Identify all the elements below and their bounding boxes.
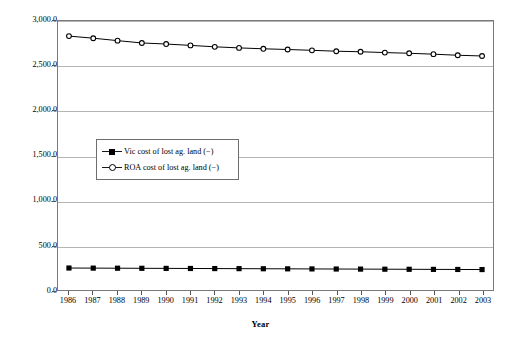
x-tick-label: 1991 (182, 296, 198, 306)
x-tick-mark (410, 291, 411, 295)
data-point-marker (479, 267, 484, 272)
x-tick-label: 1988 (109, 296, 125, 306)
x-tick-label: 1989 (133, 296, 149, 306)
x-tick-label: 1986 (60, 296, 76, 306)
data-point-marker (115, 38, 120, 43)
y-tick-mark (52, 110, 56, 111)
filled-square-marker-icon (102, 147, 122, 157)
y-tick-mark (52, 291, 56, 292)
x-tick-mark (361, 291, 362, 295)
open-circle-marker-icon (102, 163, 122, 173)
data-point-marker (310, 48, 315, 53)
y-tick-label: 2,000.0 (5, 106, 57, 114)
data-point-marker (358, 267, 363, 272)
data-point-marker (212, 266, 217, 271)
y-tick-label: 3,000.0 (5, 16, 57, 24)
data-point-marker (212, 44, 217, 49)
data-point-marker (66, 265, 71, 270)
x-tick-label: 1995 (280, 296, 296, 306)
x-tick-label: 2001 (426, 296, 442, 306)
x-tick-mark (166, 291, 167, 295)
legend-label-vic: Vic cost of lost ag. land (−) (122, 147, 213, 157)
y-tick-mark (52, 201, 56, 202)
x-axis-title: Year (0, 319, 521, 329)
data-point-marker (285, 266, 290, 271)
data-point-marker (455, 267, 460, 272)
y-tick-label: 2,500.0 (5, 61, 57, 69)
y-tick-label: 0.0 (5, 287, 57, 295)
legend-label-roa: ROA cost of lost ag. land (−) (122, 163, 219, 173)
y-tick-mark (52, 65, 56, 66)
x-tick-label: 1993 (231, 296, 247, 306)
data-point-marker (431, 52, 436, 57)
data-point-marker (139, 266, 144, 271)
x-tick-label: 2002 (450, 296, 466, 306)
x-tick-label: 1990 (157, 296, 173, 306)
x-tick-mark (434, 291, 435, 295)
x-tick-mark (214, 291, 215, 295)
series-line (69, 268, 482, 270)
data-point-marker (261, 266, 266, 271)
y-tick-label: 500.0 (5, 242, 57, 250)
x-axis-ticks: 1986198719881989199019911992199319941995… (57, 296, 494, 310)
x-tick-mark (141, 291, 142, 295)
data-point-marker (334, 266, 339, 271)
y-tick-mark (52, 156, 56, 157)
x-tick-label: 1999 (377, 296, 393, 306)
x-tick-label: 1996 (304, 296, 320, 306)
data-point-marker (407, 51, 412, 56)
data-point-marker (91, 266, 96, 271)
data-point-marker (237, 46, 242, 51)
data-point-marker (431, 267, 436, 272)
data-point-marker (164, 42, 169, 47)
x-tick-mark (92, 291, 93, 295)
data-point-marker (67, 34, 72, 39)
data-point-marker (115, 266, 120, 271)
data-point-marker (188, 266, 193, 271)
x-tick-label: 1994 (255, 296, 271, 306)
x-tick-mark (263, 291, 264, 295)
x-tick-label: 1997 (328, 296, 344, 306)
data-point-marker (236, 266, 241, 271)
data-point-marker (188, 43, 193, 48)
legend-entry-vic: Vic cost of lost ag. land (−) (102, 144, 233, 160)
y-axis-ticks: 0.0500.01,000.01,500.02,000.02,500.03,00… (0, 0, 57, 344)
data-point-marker (139, 41, 144, 46)
x-tick-label: 1998 (353, 296, 369, 306)
x-tick-label: 1987 (84, 296, 100, 306)
data-point-marker (91, 36, 96, 41)
x-tick-label: 1992 (206, 296, 222, 306)
x-tick-mark (68, 291, 69, 295)
x-tick-mark (483, 291, 484, 295)
x-tick-mark (239, 291, 240, 295)
data-point-marker (382, 50, 387, 55)
x-tick-mark (337, 291, 338, 295)
data-point-marker (407, 267, 412, 272)
x-tick-mark (312, 291, 313, 295)
data-point-marker (309, 266, 314, 271)
data-point-marker (382, 267, 387, 272)
data-point-marker (334, 49, 339, 54)
data-point-marker (164, 266, 169, 271)
x-tick-mark (288, 291, 289, 295)
data-point-marker (455, 53, 460, 58)
y-tick-mark (52, 246, 56, 247)
data-point-marker (480, 54, 485, 59)
x-tick-label: 2003 (475, 296, 491, 306)
series-line (69, 36, 482, 56)
x-tick-mark (385, 291, 386, 295)
y-tick-label: 1,000.0 (5, 196, 57, 204)
legend-entry-roa: ROA cost of lost ag. land (−) (102, 160, 233, 176)
y-tick-label: 1,500.0 (5, 151, 57, 159)
x-tick-label: 2000 (402, 296, 418, 306)
x-tick-mark (117, 291, 118, 295)
y-tick-mark (52, 20, 56, 21)
x-tick-mark (459, 291, 460, 295)
chart-figure: $ per capita (2002-03 prices) 0.0500.01,… (0, 0, 521, 344)
x-tick-mark (190, 291, 191, 295)
data-point-marker (285, 47, 290, 52)
data-point-marker (358, 49, 363, 54)
data-point-marker (261, 46, 266, 51)
chart-legend: Vic cost of lost ag. land (−) ROA cost o… (96, 139, 239, 180)
